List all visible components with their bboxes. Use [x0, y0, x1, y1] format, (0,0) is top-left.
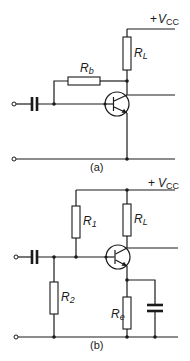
junction-dot [52, 102, 56, 106]
ground-terminal-b [14, 335, 18, 339]
resistor-rb-a [68, 77, 100, 85]
resistor-r2-b [50, 282, 58, 314]
junction-dot [153, 335, 157, 339]
junction-dot [125, 157, 129, 161]
resistor-r1-b [72, 206, 80, 238]
junction-dot [52, 335, 56, 339]
resistor-rl-a [123, 37, 131, 70]
input-terminal-a [12, 102, 16, 106]
resistor-rl-b [123, 204, 131, 236]
circuit-diagram: +VCC Rb RL (a) [0, 0, 190, 361]
rl-label-a: RL [134, 46, 148, 61]
r1-label-b: R1 [83, 214, 97, 229]
junction-dot [125, 335, 129, 339]
vcc-label-b: +VCC [148, 176, 180, 191]
r2-label-b: R2 [61, 290, 75, 305]
caption-a: (a) [90, 161, 103, 173]
wire-a-rb-left [54, 81, 68, 104]
npn-transistor-b [106, 245, 130, 269]
vcc-label-a: +VCC [150, 12, 180, 27]
rb-label-a: Rb [80, 61, 94, 76]
panel-a: +VCC Rb RL (a) [12, 12, 180, 173]
panel-b: +VCC R1 RL R2 Re (b) [14, 176, 180, 351]
ground-terminal-a [12, 157, 16, 161]
input-terminal-b [14, 255, 18, 259]
caption-b: (b) [90, 339, 103, 351]
npn-transistor-a [105, 92, 129, 116]
rl-label-b: RL [134, 212, 148, 227]
junction-dot [74, 255, 78, 259]
